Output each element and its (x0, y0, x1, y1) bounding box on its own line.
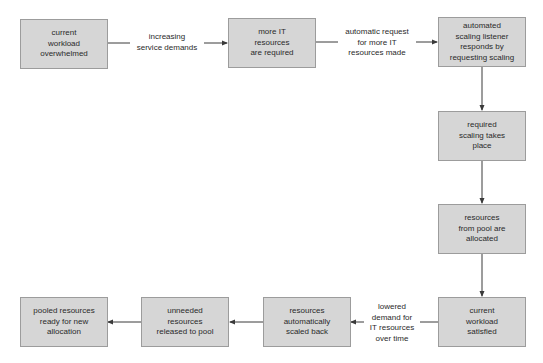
node-text: current workload overwhelmed (40, 28, 88, 60)
node-resources-from-pool-allocated: resources from pool are allocated (438, 204, 526, 254)
node-text: resources automatically scaled back (284, 306, 331, 338)
node-text: pooled resources ready for new allocatio… (33, 306, 94, 338)
node-required-scaling-takes-place: required scaling takes place (438, 111, 526, 161)
edge-label-n6-n7: lowered demand for IT resources over tim… (364, 302, 420, 344)
node-text: unneeded resources released to pool (157, 306, 214, 338)
node-unneeded-resources-released: unneeded resources released to pool (141, 297, 229, 347)
node-current-workload-overwhelmed: current workload overwhelmed (20, 19, 108, 69)
node-current-workload-satisfied: current workload satisfied (438, 297, 526, 347)
node-text: current workload satisfied (466, 306, 498, 338)
node-resources-scaled-back: resources automatically scaled back (263, 297, 351, 347)
node-pooled-resources-ready: pooled resources ready for new allocatio… (20, 297, 108, 347)
edge-label-n1-n2: increasing service demands (130, 32, 204, 53)
node-automated-scaling-listener: automated scaling listener responds by r… (438, 17, 526, 67)
node-text: resources from pool are allocated (458, 213, 505, 245)
node-text: automated scaling listener responds by r… (450, 21, 514, 63)
node-text: required scaling takes place (459, 120, 505, 152)
node-more-it-resources-required: more IT resources are required (228, 18, 316, 68)
edge-label-n2-n3: automatic request for more IT resources … (338, 27, 416, 59)
node-text: more IT resources are required (250, 27, 293, 59)
